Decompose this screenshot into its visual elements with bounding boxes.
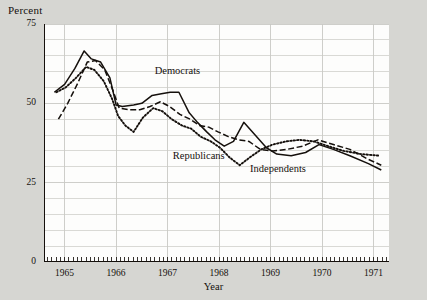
y-axis-title: Percent [8, 4, 42, 16]
x-tick-label: 1965 [45, 268, 85, 278]
x-tick-label: 1966 [96, 268, 136, 278]
plot-svg [44, 24, 389, 262]
republicans-label: Republicans [173, 150, 225, 161]
y-tick-label: 25 [10, 177, 36, 187]
y-tick-label: 0 [10, 256, 36, 266]
x-axis-title: Year [0, 281, 427, 292]
x-tick-label: 1971 [354, 268, 394, 278]
x-tick-label: 1968 [199, 268, 239, 278]
y-tick-label: 50 [10, 97, 36, 107]
x-tick-label: 1970 [302, 268, 342, 278]
y-tick-label: 75 [10, 18, 36, 28]
x-tick-label: 1967 [148, 268, 188, 278]
plot-area [44, 24, 389, 262]
figure-root: Percent 7550250 196519661967196819691970… [0, 0, 427, 300]
x-tick-label: 1969 [251, 268, 291, 278]
independents-label: Independents [250, 163, 306, 174]
democrats-label: Democrats [155, 65, 200, 76]
